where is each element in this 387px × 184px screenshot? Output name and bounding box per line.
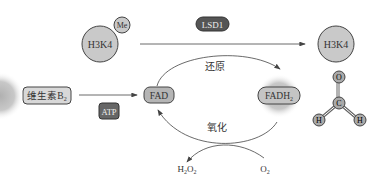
o2-to-h2o2-arrow — [187, 145, 264, 162]
h3k4-left-label: H3K4 — [88, 39, 112, 50]
oxidation-label: 氧化 — [207, 121, 227, 133]
formaldehyde-molecule: O C H H — [313, 71, 366, 126]
lsd1-label: LSD1 — [202, 20, 224, 30]
fad-box: FAD — [144, 87, 174, 103]
oxygen-atom: O — [336, 73, 342, 82]
o2-label: O2 — [260, 164, 270, 175]
h3k4-methylated-node: H3K4 Me — [82, 17, 130, 62]
fadh2-label: FADH2 — [265, 91, 293, 102]
lsd1-enzyme-badge: LSD1 — [196, 17, 229, 31]
vitamin-b2-box: 维生素B2 — [23, 87, 71, 104]
atp-badge: ATP — [99, 103, 119, 119]
carbon-atom: C — [336, 99, 341, 108]
fad-label: FAD — [150, 91, 168, 101]
lsd1-demethylation-diagram: H3K4 Me LSD1 H3K4 O C H H 维生素B2 — [0, 0, 387, 184]
reduction-label: 还原 — [205, 61, 225, 72]
atp-label: ATP — [101, 107, 116, 117]
hydrogen-atom-right: H — [357, 116, 363, 125]
vitamin-b2-label: 维生素B2 — [27, 90, 66, 102]
h3k4-demethylated-node: H3K4 — [318, 26, 354, 62]
hydrogen-atom-left: H — [316, 116, 322, 125]
h3k4-right-label: H3K4 — [324, 39, 348, 50]
h2o2-label: H2O2 — [178, 164, 197, 175]
methyl-label: Me — [117, 21, 128, 30]
